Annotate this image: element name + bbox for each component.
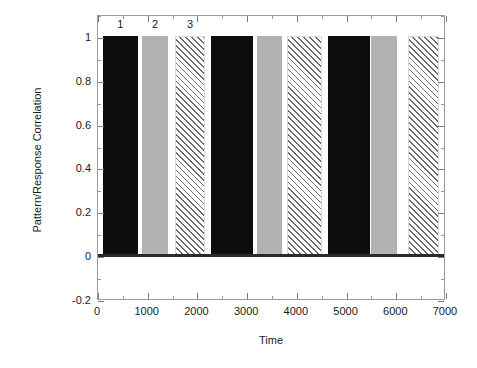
y-tick-mark [98,82,104,83]
x-minor-tick-mark [371,16,372,19]
y-tick-mark [438,301,444,302]
bar [211,36,253,255]
x-tick-mark [247,16,248,22]
bar [328,36,370,255]
x-minor-tick-mark [222,296,223,299]
x-minor-tick-mark [123,296,124,299]
x-tick-label: 5000 [321,306,371,317]
bar [175,36,206,255]
plot-surface: 123 [98,16,444,299]
x-tick-mark [98,16,99,22]
bar [103,36,138,255]
x-tick-mark [148,293,149,299]
x-tick-label: 6000 [370,306,420,317]
y-tick-label: 1 [51,32,91,43]
y-tick-mark [98,257,104,258]
x-tick-label: 3000 [221,306,271,317]
x-tick-mark [197,293,198,299]
y-minor-tick-mark [441,279,444,280]
bar [257,36,283,255]
y-tick-mark [98,301,104,302]
y-minor-tick-mark [441,60,444,61]
bar [408,36,439,255]
y-tick-mark [438,169,444,170]
y-tick-label: 0.2 [51,207,91,218]
y-minor-tick-mark [441,16,444,17]
y-tick-mark [98,169,104,170]
y-tick-label: -0.2 [51,295,91,306]
x-minor-tick-mark [322,296,323,299]
y-axis-title: Pattern/Response Correlation [31,30,51,290]
y-tick-mark [438,126,444,127]
x-minor-tick-mark [222,16,223,19]
bar [287,36,322,255]
x-axis-title: Time [97,334,445,346]
x-tick-mark [148,16,149,22]
x-minor-tick-mark [123,16,124,19]
x-minor-tick-mark [173,16,174,19]
y-minor-tick-mark [98,60,101,61]
x-tick-mark [347,16,348,22]
x-tick-mark [297,16,298,22]
x-tick-mark [347,293,348,299]
y-minor-tick-mark [98,104,101,105]
chart-figure: Pattern/Response Correlation 123 -0.200.… [0,0,477,368]
bar [142,36,168,255]
x-tick-mark [297,293,298,299]
y-minor-tick-mark [98,235,101,236]
bar-annotation: 3 [170,19,210,30]
y-minor-tick-mark [98,279,101,280]
x-tick-mark [396,293,397,299]
y-tick-mark [438,38,444,39]
x-minor-tick-mark [322,16,323,19]
x-tick-label: 1000 [122,306,172,317]
x-minor-tick-mark [371,296,372,299]
y-tick-label: 0.8 [51,76,91,87]
x-tick-mark [197,16,198,22]
y-tick-mark [438,213,444,214]
y-tick-label: 0 [51,251,91,262]
x-tick-mark [247,293,248,299]
x-tick-mark [446,16,447,22]
plot-area: 123 [97,15,445,300]
x-minor-tick-mark [173,296,174,299]
y-minor-tick-mark [441,148,444,149]
x-tick-label: 7000 [420,306,470,317]
x-tick-label: 2000 [171,306,221,317]
y-minor-tick-mark [441,104,444,105]
y-tick-mark [98,126,104,127]
y-minor-tick-mark [441,235,444,236]
x-minor-tick-mark [421,16,422,19]
x-tick-mark [446,293,447,299]
y-minor-tick-mark [98,148,101,149]
bar [371,36,397,255]
x-tick-label: 0 [72,306,122,317]
y-tick-mark [98,38,104,39]
y-minor-tick-mark [441,191,444,192]
y-tick-mark [98,213,104,214]
x-minor-tick-mark [421,296,422,299]
x-tick-label: 4000 [271,306,321,317]
y-tick-mark [438,257,444,258]
x-tick-mark [396,16,397,22]
x-minor-tick-mark [272,296,273,299]
y-minor-tick-mark [98,191,101,192]
x-minor-tick-mark [272,16,273,19]
y-tick-label: 0.4 [51,163,91,174]
y-tick-mark [438,82,444,83]
zero-baseline [98,254,444,257]
x-tick-mark [98,293,99,299]
y-tick-label: 0.6 [51,120,91,131]
